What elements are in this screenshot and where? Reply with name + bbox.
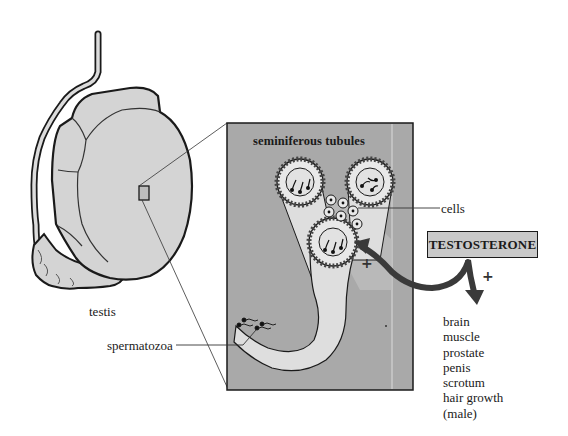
cells-label: cells	[441, 201, 465, 216]
target-item: brain	[443, 314, 503, 329]
target-organ-list: brain muscle prostate penis scrotum hair…	[443, 314, 503, 421]
panel-title: seminiferous tubules	[226, 134, 392, 149]
testosterone-box: TESTOSTERONE	[427, 231, 538, 258]
testis-label: testis	[89, 304, 116, 319]
target-item: (male)	[443, 406, 503, 421]
target-item: scrotum	[443, 375, 503, 390]
tubule-cross-section-bottom	[309, 218, 357, 266]
testis-organ	[52, 88, 192, 280]
plus-sign-tubule: +	[361, 255, 373, 271]
target-item: muscle	[443, 329, 503, 344]
tubule-cross-section-top-left	[277, 159, 323, 205]
spermatozoa-label: spermatozoa	[107, 338, 173, 353]
target-item: hair growth	[443, 390, 503, 405]
tubule-cross-section-top-right	[347, 159, 393, 205]
target-item: penis	[443, 360, 503, 375]
target-item: prostate	[443, 345, 503, 360]
plus-sign-targets: +	[482, 268, 494, 284]
magnified-region-marker	[139, 186, 149, 200]
testosterone-label: TESTOSTERONE	[429, 237, 537, 253]
